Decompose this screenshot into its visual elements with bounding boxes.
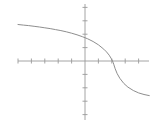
curve-decreasing-sigmoid-curve bbox=[18, 25, 149, 96]
plot-canvas bbox=[0, 0, 154, 123]
x-axis bbox=[18, 59, 149, 64]
y-axis bbox=[83, 4, 88, 120]
plot-figure bbox=[0, 0, 154, 123]
data-series-group bbox=[18, 25, 149, 96]
